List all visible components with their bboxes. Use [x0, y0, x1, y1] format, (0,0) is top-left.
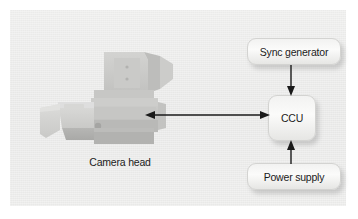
diagram-figure: Camera head Sync generator CCU Power sup…	[0, 0, 358, 219]
arrow-camera-head-to-ccu	[145, 108, 270, 122]
arrow-power-supply-to-ccu	[284, 140, 298, 164]
node-ccu[interactable]: CCU	[268, 95, 316, 141]
node-sync-generator-label: Sync generator	[260, 46, 328, 58]
node-sync-generator[interactable]: Sync generator	[247, 38, 341, 65]
node-power-supply-label: Power supply	[264, 171, 325, 183]
camera-lower-body	[62, 128, 154, 144]
camera-viewfinder-group	[104, 52, 173, 93]
node-ccu-label: CCU	[281, 112, 303, 124]
camera-head-illustration	[36, 46, 178, 148]
camera-lens-hood-group	[40, 104, 60, 138]
camera-lens-barrel-group	[58, 102, 94, 128]
diagram-panel: Camera head Sync generator CCU Power sup…	[10, 10, 346, 206]
camera-head-label: Camera head	[68, 156, 172, 168]
arrow-sync-generator-to-ccu	[284, 65, 298, 96]
name-plate	[64, 104, 84, 109]
node-power-supply[interactable]: Power supply	[247, 163, 341, 190]
